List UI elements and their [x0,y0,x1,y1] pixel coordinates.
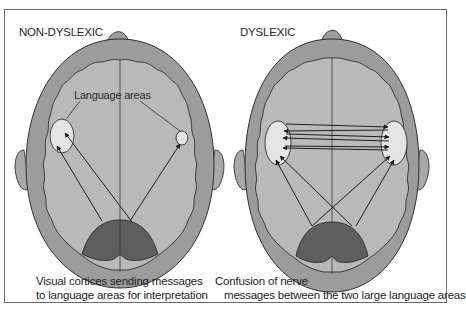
language-area-right [176,131,188,145]
caption-line: Confusion of nerve [215,274,466,288]
non-dyslexic-head [15,32,224,288]
caption-non-dyslexic: Visual cortices sending messages to lang… [36,274,208,302]
caption-dyslexic: Confusion of nerve messages between the … [215,274,466,302]
language-area-left [50,119,74,153]
language-area-right [381,121,407,165]
caption-line: messages between the two large language … [215,288,466,302]
dyslexic-head [234,30,429,292]
panel-title-non-dyslexic: NON-DYSLEXIC [19,26,103,38]
panel-title-dyslexic: DYSLEXIC [240,26,295,38]
language-areas-label: Language areas [74,89,151,101]
language-area-left [265,121,291,165]
caption-line: to language areas for interpretation [36,288,208,302]
caption-line: Visual cortices sending messages [36,274,208,288]
